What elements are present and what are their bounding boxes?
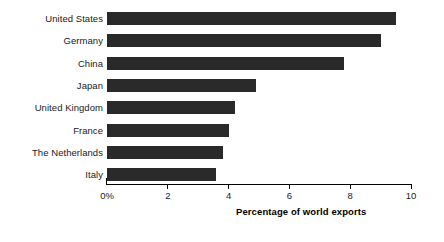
bar <box>107 124 229 137</box>
bar <box>107 168 216 181</box>
bar-chart: United StatesGermanyChinaJapanUnited Kin… <box>0 0 444 242</box>
value-axis-tick-label: 6 <box>287 190 292 202</box>
value-axis-title: Percentage of world exports <box>236 206 366 217</box>
value-axis-tick-label: 10 <box>406 190 417 202</box>
category-axis-labels: United StatesGermanyChinaJapanUnited Kin… <box>0 0 103 185</box>
category-label: Italy <box>0 169 103 180</box>
value-axis-tick-label: 4 <box>226 190 231 202</box>
category-label: China <box>0 58 103 69</box>
value-axis-tick-label: 2 <box>165 190 170 202</box>
bar <box>107 34 381 47</box>
category-label: United Kingdom <box>0 102 103 113</box>
category-label: United States <box>0 13 103 24</box>
bar <box>107 79 256 92</box>
value-axis-tick <box>411 185 412 189</box>
bar <box>107 57 344 70</box>
value-axis-tick <box>228 185 229 189</box>
category-label: Germany <box>0 35 103 46</box>
bar <box>107 146 223 159</box>
category-label: France <box>0 125 103 136</box>
bar <box>107 101 235 114</box>
bar <box>107 12 396 25</box>
value-axis-tick <box>350 185 351 189</box>
plot-area <box>107 0 417 185</box>
value-axis-tick-label: 8 <box>348 190 353 202</box>
value-axis-tick <box>289 185 290 189</box>
value-axis-line <box>106 184 412 185</box>
value-axis-tick-label: 0% <box>100 190 114 202</box>
category-label: The Netherlands <box>0 147 103 158</box>
category-label: Japan <box>0 80 103 91</box>
value-axis-tick <box>167 185 168 189</box>
